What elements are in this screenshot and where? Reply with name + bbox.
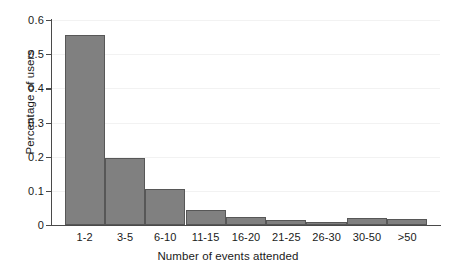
x-tick-label: 3-5 bbox=[117, 231, 133, 243]
bar bbox=[65, 35, 105, 225]
x-tick-label: 1-2 bbox=[77, 231, 93, 243]
y-tick-label: 0.4 bbox=[0, 82, 44, 94]
bar bbox=[226, 217, 266, 225]
x-tick-label: 21-25 bbox=[272, 231, 301, 243]
y-tick-mark bbox=[46, 191, 52, 192]
gridline-0.5 bbox=[52, 54, 440, 55]
y-tick-label: 0.1 bbox=[0, 185, 44, 197]
x-tick-label: >50 bbox=[398, 231, 417, 243]
y-tick-mark bbox=[46, 54, 52, 55]
gridline-0.4 bbox=[52, 88, 440, 89]
bar-chart-figure: 00.10.20.30.40.50.6 1-23-56-1011-1516-20… bbox=[0, 0, 456, 274]
bar bbox=[387, 219, 427, 225]
x-axis-line bbox=[51, 225, 441, 226]
y-tick-label: 0.3 bbox=[0, 117, 44, 129]
bar bbox=[266, 220, 306, 225]
bar bbox=[186, 210, 226, 225]
gridline-0.6 bbox=[52, 20, 440, 21]
x-tick-label: 26-30 bbox=[312, 231, 341, 243]
y-tick-label: 0 bbox=[0, 219, 44, 231]
y-tick-label: 0.2 bbox=[0, 151, 44, 163]
x-tick-label: 6-10 bbox=[154, 231, 176, 243]
bar bbox=[306, 222, 346, 225]
gridline-0.3 bbox=[52, 123, 440, 124]
y-tick-mark bbox=[46, 88, 52, 89]
y-tick-mark bbox=[46, 20, 52, 21]
x-tick-label: 11-15 bbox=[192, 231, 220, 243]
x-tick-label: 16-20 bbox=[232, 231, 261, 243]
y-axis-title: Percentage of users bbox=[24, 12, 36, 192]
y-tick-label: 0.6 bbox=[0, 14, 44, 26]
y-tick-mark bbox=[46, 157, 52, 158]
y-tick-mark bbox=[46, 123, 52, 124]
bar bbox=[347, 218, 387, 225]
x-tick-label: 30-50 bbox=[353, 231, 382, 243]
bar bbox=[145, 189, 185, 225]
plot-area bbox=[52, 20, 440, 225]
y-tick-label: 0.5 bbox=[0, 48, 44, 60]
x-axis-title: Number of events attended bbox=[0, 250, 456, 262]
bar bbox=[105, 158, 145, 225]
y-tick-mark bbox=[46, 225, 52, 226]
